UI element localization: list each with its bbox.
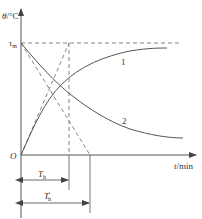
curve-1-heating	[21, 48, 167, 155]
tau-m-label: τm	[9, 39, 17, 49]
th-label: Th	[38, 169, 46, 180]
y-axis-unit: /°C	[6, 11, 18, 21]
curve-2-cooling	[21, 43, 183, 138]
x-axis-unit: /min	[177, 161, 194, 171]
curve-2-label: 2	[122, 116, 127, 126]
tangent-cooling	[21, 43, 90, 155]
th-subscript: h	[43, 174, 46, 180]
tau-subscript: m	[12, 43, 17, 49]
curve-1-label: 1	[121, 57, 126, 67]
origin-label: O	[10, 151, 17, 161]
th-prime-subscript: h	[48, 196, 51, 202]
th-prime-label: T'h	[44, 191, 51, 202]
heating-cooling-diagram: θ/°C τm O t/min 1 2 Th T'h	[0, 0, 202, 219]
y-axis-label: θ/°C	[2, 11, 19, 21]
x-axis-label: t/min	[174, 161, 194, 171]
